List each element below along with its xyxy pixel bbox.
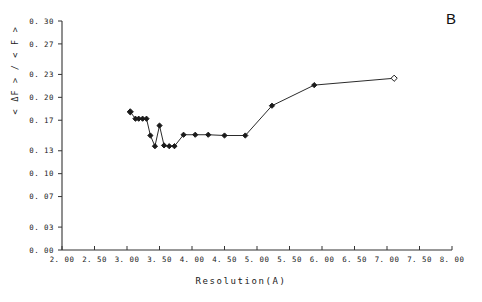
y-tick-label: 0. 10 xyxy=(29,169,54,178)
x-tick-label: 7. 00 xyxy=(375,255,400,264)
data-point-marker xyxy=(193,132,198,137)
plot-canvas: 0. 000. 030. 070. 100. 130. 170. 200. 23… xyxy=(0,0,482,302)
x-tick-label: 6. 50 xyxy=(342,255,367,264)
data-series-line xyxy=(130,78,394,146)
data-point-marker xyxy=(222,133,227,138)
y-tick-group: 0. 000. 030. 070. 100. 130. 170. 200. 23… xyxy=(29,17,62,255)
data-point-marker xyxy=(206,132,211,137)
y-tick-label: 0. 20 xyxy=(29,93,54,102)
figure-panel-b: B < ΔF > / < F > Resolution(A) 0. 000. 0… xyxy=(0,0,482,302)
y-tick-label: 0. 23 xyxy=(29,70,54,79)
x-tick-label: 7. 50 xyxy=(407,255,432,264)
x-tick-label: 2. 50 xyxy=(82,255,107,264)
data-marker-group xyxy=(127,75,397,149)
x-tick-label: 2. 00 xyxy=(50,255,75,264)
x-tick-group: 2. 002. 503. 003. 504. 004. 505. 005. 50… xyxy=(50,246,465,264)
data-point-marker xyxy=(312,83,317,88)
y-tick-label: 0. 17 xyxy=(29,116,54,125)
y-tick-label: 0. 03 xyxy=(29,223,54,232)
y-tick-label: 0. 07 xyxy=(29,192,54,201)
x-tick-label: 6. 00 xyxy=(310,255,335,264)
data-point-marker xyxy=(161,143,166,148)
y-tick-label: 0. 30 xyxy=(29,17,54,26)
y-tick-label: 0. 27 xyxy=(29,40,54,49)
x-tick-label: 4. 50 xyxy=(212,255,237,264)
data-point-marker xyxy=(391,75,397,81)
x-tick-label: 4. 00 xyxy=(180,255,205,264)
y-tick-label: 0. 00 xyxy=(29,246,54,255)
y-tick-label: 0. 13 xyxy=(29,146,54,155)
data-point-marker xyxy=(152,144,157,149)
x-tick-label: 5. 00 xyxy=(245,255,270,264)
data-point-marker xyxy=(167,144,172,149)
data-point-marker xyxy=(157,123,162,128)
x-tick-label: 3. 50 xyxy=(147,255,172,264)
x-tick-label: 5. 50 xyxy=(277,255,302,264)
x-tick-label: 3. 00 xyxy=(115,255,140,264)
data-point-marker xyxy=(144,116,149,121)
x-tick-label: 8. 00 xyxy=(440,255,465,264)
data-point-marker xyxy=(148,133,153,138)
